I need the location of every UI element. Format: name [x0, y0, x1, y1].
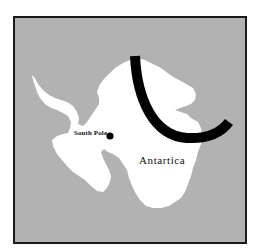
south-pole-label: South Pole [74, 129, 107, 137]
south-pole-marker [106, 132, 113, 139]
antarctica-map [15, 18, 245, 242]
map-frame: South Pole Antartica [13, 16, 247, 244]
continent-label: Antartica [139, 154, 185, 166]
